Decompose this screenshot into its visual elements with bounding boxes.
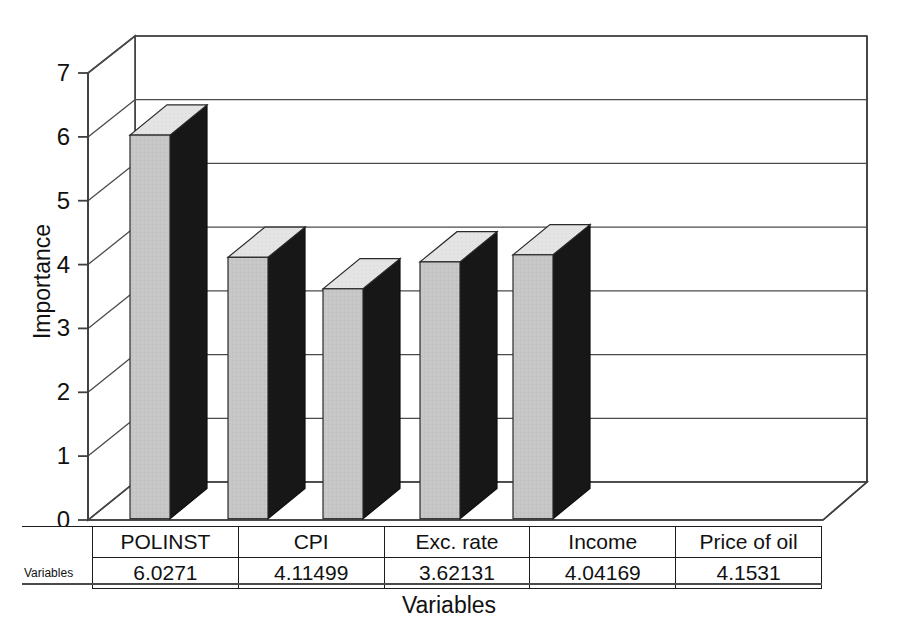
y-axis-title: Importance: [31, 192, 54, 372]
table-bottom-rule: [22, 583, 822, 585]
y-tick-label-6: 6: [42, 125, 70, 149]
bar-price-of-oil[interactable]: [513, 225, 590, 519]
table-header-cpi: CPI: [238, 527, 384, 558]
table-header-exc-rate: Exc. rate: [384, 527, 530, 558]
table-header-price-of-oil: Price of oil: [676, 527, 822, 558]
table-corner-cell: [22, 527, 93, 558]
table-header-income: Income: [530, 527, 676, 558]
plot-left-wall: [88, 36, 135, 520]
y-axis: [78, 73, 88, 520]
bar-chart-figure: 7 6 5 4 3 2 1 0 Importance Variables POL…: [0, 0, 898, 640]
y-tick-label-1: 1: [42, 444, 70, 468]
y-tick-label-2: 2: [42, 380, 70, 404]
x-axis-title: Variables: [0, 592, 898, 618]
data-table: POLINST CPI Exc. rate Income Price of oi…: [22, 526, 822, 589]
bar-cpi[interactable]: [228, 227, 305, 519]
y-tick-label-7: 7: [42, 61, 70, 85]
bar-income[interactable]: [420, 232, 497, 519]
y-axis-ticks: [78, 73, 88, 520]
bar-exc-rate[interactable]: [323, 259, 400, 519]
table-header-row: POLINST CPI Exc. rate Income Price of oi…: [22, 527, 822, 558]
bar-polinst[interactable]: [130, 105, 207, 519]
table-header-polinst: POLINST: [93, 527, 239, 558]
